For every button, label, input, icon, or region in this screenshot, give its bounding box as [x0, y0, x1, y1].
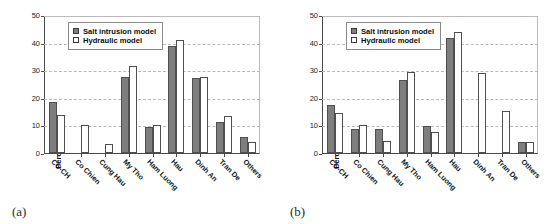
legend-swatch-salt-intrusion-model — [351, 28, 357, 34]
figure-two-panel-bar-charts: Percentage of observations (%)0102030405… — [0, 0, 556, 224]
x-label-cell: Cung Hau — [93, 156, 117, 210]
x-axis-tick-label: Hau — [448, 158, 463, 173]
y-tick-label: 20 — [32, 95, 40, 103]
bar-group — [442, 16, 466, 153]
bar-salt — [192, 78, 200, 153]
legend-label: Hydraulic model — [361, 37, 420, 45]
bar-salt — [216, 122, 224, 154]
bar-group — [466, 16, 490, 153]
bar-hyd — [335, 113, 343, 153]
y-tick-label: 30 — [310, 67, 318, 75]
x-label-cell: Others — [237, 156, 261, 210]
bar-salt — [375, 129, 383, 153]
bar-hyd — [526, 142, 534, 153]
chart-panel-b: Percentage of observations (%)0102030405… — [278, 0, 556, 224]
bar-salt — [399, 80, 407, 153]
bar-hyd — [176, 40, 184, 153]
legend-item: Hydraulic model — [73, 37, 156, 45]
bar-hyd — [57, 115, 65, 153]
chart-legend: Salt intrusion modelHydraulic model — [346, 22, 441, 50]
bar-hyd — [200, 77, 208, 153]
chart-panel-a: Percentage of observations (%)0102030405… — [0, 0, 278, 224]
bar-salt — [327, 105, 335, 153]
bar-hyd — [248, 142, 256, 153]
x-label-cell: Others — [515, 156, 539, 210]
legend-swatch-salt-intrusion-model — [73, 28, 79, 34]
bar-hyd — [383, 141, 391, 153]
x-label-cell: Tran De — [491, 156, 515, 210]
x-label-cell: Dinh An — [467, 156, 491, 210]
x-label-cell: Co Chien — [347, 156, 371, 210]
y-tick-mark — [319, 71, 322, 72]
bar-salt — [446, 38, 454, 153]
legend-label: Salt intrusion model — [361, 28, 434, 36]
y-tick-mark — [319, 44, 322, 45]
y-tick-label: 0 — [314, 150, 318, 158]
y-tick-label: 50 — [32, 12, 40, 20]
x-axis-labels: CC-CHCo ChienCung HauMy ThoHam LuongHauD… — [323, 156, 539, 210]
y-tick-label: 40 — [310, 40, 318, 48]
bar-group — [490, 16, 514, 153]
x-label-cell: Cung Hau — [371, 156, 395, 210]
bar-salt — [518, 142, 526, 153]
legend-swatch-hydraulic-model — [351, 37, 357, 43]
bar-salt — [351, 129, 359, 153]
y-tick-mark — [41, 44, 44, 45]
x-axis-tick-label: Hau — [170, 158, 185, 173]
y-tick-label: 50 — [310, 12, 318, 20]
bar-group — [323, 16, 347, 153]
bar-hyd — [454, 32, 462, 153]
bar-hyd — [224, 116, 232, 153]
bar-hyd — [407, 72, 415, 153]
legend-label: Salt intrusion model — [83, 28, 156, 36]
y-tick-mark — [319, 154, 322, 155]
bar-hyd — [502, 111, 510, 153]
bar-hyd — [129, 66, 137, 153]
y-tick-mark — [319, 99, 322, 100]
x-axis-tick-label: Others — [242, 158, 264, 180]
y-tick-mark — [319, 126, 322, 127]
legend-label: Hydraulic model — [83, 37, 142, 45]
bar-salt — [240, 137, 248, 153]
legend-item: Salt intrusion model — [351, 28, 434, 36]
bar-hyd — [81, 125, 89, 153]
x-axis-labels: CC-CHCo ChienCung HauMy ThoHam LuongHauD… — [45, 156, 261, 210]
bar-hyd — [478, 73, 486, 153]
y-tick-label: 0 — [36, 150, 40, 158]
x-label-cell: Co Chien — [69, 156, 93, 210]
y-tick-label: 30 — [32, 67, 40, 75]
x-axis-tick-label: Others — [520, 158, 542, 180]
bar-group — [188, 16, 212, 153]
panel-caption: (b) — [290, 204, 305, 220]
y-tick-mark — [41, 16, 44, 17]
bar-salt — [168, 46, 176, 153]
chart-legend: Salt intrusion modelHydraulic model — [68, 22, 163, 50]
x-label-cell: Hau — [443, 156, 467, 210]
y-tick-label: 10 — [310, 123, 318, 131]
x-label-cell: Ham Luong — [419, 156, 443, 210]
x-label-cell: Ham Luong — [141, 156, 165, 210]
y-tick-label: 40 — [32, 40, 40, 48]
x-label-cell: My Tho — [395, 156, 419, 210]
x-label-cell: Dinh An — [189, 156, 213, 210]
y-tick-label: 20 — [310, 95, 318, 103]
legend-swatch-hydraulic-model — [73, 37, 79, 43]
y-tick-mark — [41, 126, 44, 127]
x-label-cell: CC-CH — [45, 156, 69, 210]
bar-hyd — [153, 125, 161, 153]
x-label-cell: CC-CH — [323, 156, 347, 210]
bar-group — [514, 16, 538, 153]
y-tick-mark — [41, 99, 44, 100]
bar-salt — [49, 102, 57, 153]
y-tick-mark — [319, 16, 322, 17]
x-label-cell: Tran De — [213, 156, 237, 210]
bar-salt — [423, 126, 431, 153]
bar-hyd — [431, 132, 439, 153]
x-label-cell: My Tho — [117, 156, 141, 210]
x-label-cell: Hau — [165, 156, 189, 210]
y-tick-label: 10 — [32, 123, 40, 131]
bar-salt — [145, 127, 153, 153]
bar-group — [212, 16, 236, 153]
bar-salt — [121, 77, 129, 153]
bar-group — [164, 16, 188, 153]
